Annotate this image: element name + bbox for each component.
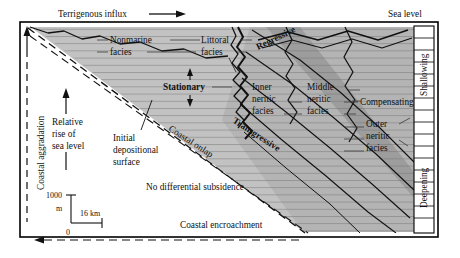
scale-vertical-top: 1000 bbox=[46, 191, 62, 200]
no-differential-subsidence-label: No differential subsidence bbox=[146, 182, 244, 192]
relative-rise-line3: sea level bbox=[52, 141, 85, 151]
scale-horizontal: 16 km bbox=[80, 209, 101, 218]
stationary-label: Stationary bbox=[163, 82, 205, 92]
middle-neritic-line2: neritic bbox=[307, 94, 331, 104]
inner-neritic-line2: neritic bbox=[252, 94, 276, 104]
nonmarine-facies-line2: facies bbox=[110, 47, 132, 57]
terrigenous-influx-label: Terrigenous influx bbox=[58, 9, 127, 19]
inner-neritic-line3: facies bbox=[252, 106, 274, 116]
stratigraphic-cross-section: Terrigenous influx Sea level Coastal agg… bbox=[0, 0, 460, 258]
sea-level-label: Sea level bbox=[388, 9, 422, 19]
littoral-facies-line1: Littoral bbox=[201, 35, 229, 45]
coastal-aggradation-label: Coastal aggradation bbox=[36, 116, 46, 190]
scale-vertical-unit: m bbox=[56, 204, 63, 213]
deepening-label: Deepening bbox=[419, 167, 429, 208]
outer-neritic-line1: Outer bbox=[366, 119, 388, 129]
relative-rise-line2: rise of bbox=[52, 129, 76, 139]
inner-neritic-line1: Inner bbox=[252, 82, 273, 92]
ids-line2: depositional bbox=[113, 145, 159, 155]
shallowing-label: Shallowing bbox=[419, 53, 429, 96]
relative-rise-line1: Relative bbox=[52, 117, 83, 127]
ids-line1: Initial bbox=[113, 133, 136, 143]
coastal-encroachment-label: Coastal encroachment bbox=[180, 220, 263, 230]
littoral-facies-line2: facies bbox=[201, 47, 223, 57]
terrigenous-influx-arrow bbox=[149, 11, 186, 18]
outer-neritic-line2: neritic bbox=[366, 131, 390, 141]
middle-neritic-line1: Middle bbox=[307, 82, 334, 92]
middle-neritic-line3: facies bbox=[307, 106, 329, 116]
figure-canvas: Terrigenous influx Sea level Coastal agg… bbox=[0, 0, 460, 258]
compensating-label: Compensating bbox=[360, 97, 414, 107]
ids-line3: surface bbox=[113, 157, 140, 167]
scale-vertical-bottom: 0 bbox=[66, 228, 70, 237]
outer-neritic-line3: facies bbox=[366, 143, 388, 153]
nonmarine-facies-line1: Nonmarine bbox=[110, 35, 152, 45]
